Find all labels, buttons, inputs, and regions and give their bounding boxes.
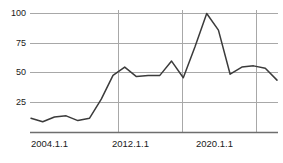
horizontal-gridlines <box>30 14 278 103</box>
x-axis-label-2020: 2020.1.1 <box>196 139 233 149</box>
x-axis-label-2004: 2004.1.1 <box>31 139 68 149</box>
y-axis-label-50: 50 <box>0 68 26 77</box>
y-axis-label-25: 25 <box>0 98 26 107</box>
line-chart: 100 75 50 25 2004.1.1 2012.1.1 2020.1.1 <box>0 0 283 163</box>
y-axis-label-100: 100 <box>0 9 26 18</box>
x-axis-label-2012: 2012.1.1 <box>112 139 149 149</box>
data-series-line <box>31 14 277 122</box>
y-axis-label-75: 75 <box>0 39 26 48</box>
